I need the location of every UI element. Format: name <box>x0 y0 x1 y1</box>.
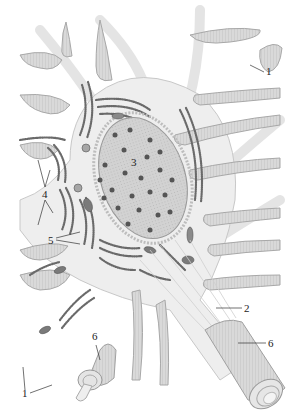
label-2-axon-hillock: 2 <box>244 303 250 314</box>
label-6-myelin-sheath-left: 6 <box>92 331 98 342</box>
label-1-synaptic-terminal-lower: 1 <box>22 388 28 399</box>
myelinated-axon-left <box>76 344 116 401</box>
label-3-nucleus: 3 <box>131 157 137 168</box>
label-4-nissl-bodies: 4 <box>42 189 48 200</box>
label-1-synaptic-terminal: 1 <box>266 66 272 77</box>
label-6-myelin-sheath-right: 6 <box>268 338 274 349</box>
label-5-mitochondria: 5 <box>48 235 54 246</box>
neuron-diagram <box>0 0 290 419</box>
